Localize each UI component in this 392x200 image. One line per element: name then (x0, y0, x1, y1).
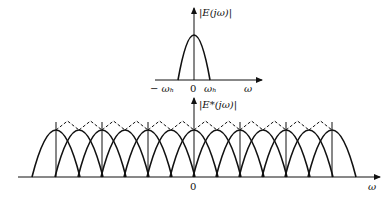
top-ylabel: |E(jω)| (199, 8, 232, 18)
spectrum-diagram (0, 0, 392, 200)
top-plot (155, 8, 262, 80)
aliasing-envelope (148, 121, 171, 130)
bottom-xlabel: ω (368, 182, 376, 192)
aliasing-envelope (286, 121, 309, 130)
aliasing-envelope (240, 121, 263, 130)
spectrum-lobe (193, 130, 241, 177)
spectrum-lobe (101, 130, 149, 177)
top-tick-zero: 0 (190, 84, 196, 94)
aliasing-envelope (263, 121, 286, 130)
top-xlabel: ω (244, 84, 252, 94)
spectrum-lobe (239, 130, 287, 177)
aliasing-envelope (309, 121, 332, 130)
spectrum-lobe (55, 130, 103, 177)
aliasing-envelope (217, 121, 240, 130)
top-tick-neg-wh: − ωₕ (150, 84, 174, 94)
bottom-origin: 0 (190, 182, 196, 192)
aliasing-envelope (102, 121, 125, 130)
bottom-ylabel: |E*(jω)| (199, 100, 237, 110)
aliasing-envelope (79, 121, 102, 130)
spectrum-lobe (147, 130, 195, 177)
aliasing-envelope (171, 121, 194, 130)
top-tick-wh: ωₕ (204, 84, 216, 94)
aliasing-envelope (194, 121, 217, 130)
aliasing-envelope (125, 121, 148, 130)
spectrum-lobe (285, 130, 333, 177)
aliasing-envelope (56, 121, 79, 130)
